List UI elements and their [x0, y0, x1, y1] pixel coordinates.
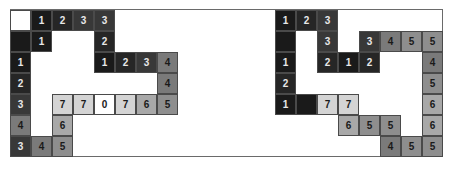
grid-cell: 4	[10, 115, 31, 136]
grid-cell: 6	[338, 115, 359, 136]
grid-cell: 2	[317, 52, 338, 73]
grid-cell: 5	[359, 115, 380, 136]
grid-cell: 5	[401, 136, 422, 157]
grid-cell: 4	[31, 136, 52, 157]
grid-cell: 3	[317, 31, 338, 52]
grid-cell: 5	[52, 136, 73, 157]
grid-cell: 7	[115, 94, 136, 115]
grid-cell: 1	[31, 31, 52, 52]
grid-cell: 7	[52, 94, 73, 115]
grid-cell: 2	[10, 73, 31, 94]
grid-cell: 2	[359, 52, 380, 73]
grid-cell: 4	[422, 52, 443, 73]
grid-cell: 1	[10, 52, 31, 73]
grid-cell: 3	[10, 136, 31, 157]
grid-cell	[10, 10, 31, 31]
grid-cell	[10, 31, 31, 52]
grid-cell: 5	[401, 31, 422, 52]
grid-cell: 2	[52, 10, 73, 31]
grid-cell: 1	[275, 94, 296, 115]
grid-cell: 5	[422, 31, 443, 52]
grid-cell: 0	[94, 94, 115, 115]
grid-cell	[275, 31, 296, 52]
grid-cell: 3	[359, 31, 380, 52]
grid-cell	[296, 94, 317, 115]
grid-cell: 3	[10, 94, 31, 115]
grid-cell: 4	[157, 52, 178, 73]
grid-cell: 6	[422, 115, 443, 136]
grid-cell: 4	[380, 136, 401, 157]
grid-cell: 2	[296, 10, 317, 31]
grid-cell: 3	[317, 10, 338, 31]
grid-cell: 5	[380, 115, 401, 136]
grid-cell: 3	[136, 52, 157, 73]
grid-cell: 5	[157, 94, 178, 115]
grid-cell: 6	[52, 115, 73, 136]
grid-cell: 1	[275, 52, 296, 73]
grid-cell: 7	[73, 94, 94, 115]
grid-cell: 7	[317, 94, 338, 115]
grid-cell: 4	[380, 31, 401, 52]
grid-cell: 3	[94, 10, 115, 31]
grid-cell: 1	[338, 52, 359, 73]
grid-cell: 1	[275, 10, 296, 31]
grid-cell: 5	[422, 73, 443, 94]
grid-cell: 1	[94, 52, 115, 73]
grid-cell: 1	[31, 10, 52, 31]
grid-cell: 2	[275, 73, 296, 94]
grid-cell: 6	[422, 94, 443, 115]
grid-cell: 6	[136, 94, 157, 115]
grid-cell: 2	[115, 52, 136, 73]
grid-cell: 5	[422, 136, 443, 157]
grid-cell: 3	[73, 10, 94, 31]
grid-cell: 7	[338, 94, 359, 115]
grid-cell: 4	[157, 73, 178, 94]
grid-cell: 2	[94, 31, 115, 52]
